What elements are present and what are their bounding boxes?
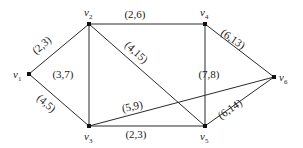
- edge-label-v1-v3: (4,5): [34, 92, 59, 116]
- edge-v3-v6: [89, 77, 274, 126]
- node-label-v2: v2: [84, 6, 93, 21]
- node-label-v1: v1: [13, 68, 22, 83]
- node-label-v4: v4: [200, 6, 209, 21]
- node-label-v3: v3: [84, 130, 93, 145]
- edge-label-v2-v5: (4,15): [122, 39, 151, 67]
- node-v2: [87, 22, 91, 26]
- edge-label-v2-v3: (3,7): [52, 68, 73, 81]
- edge-label-v3-v5: (2,3): [125, 128, 146, 141]
- edge-label-v2-v4: (2,6): [124, 8, 145, 21]
- node-v5: [203, 124, 207, 128]
- node-v6: [272, 75, 276, 79]
- node-v4: [203, 22, 207, 26]
- node-label-v6: v6: [279, 71, 288, 86]
- edge-labels-layer: (2,3)(4,5)(3,7)(2,6)(4,15)(2,3)(5,9)(7,8…: [29, 8, 247, 141]
- node-v1: [27, 72, 31, 76]
- edge-label-v4-v6: (6,13): [218, 26, 248, 52]
- edge-label-v5-v6: (6,14): [215, 96, 245, 122]
- node-label-v5: v5: [200, 130, 209, 145]
- graph-diagram: (2,3)(4,5)(3,7)(2,6)(4,15)(2,3)(5,9)(7,8…: [0, 0, 303, 148]
- edge-label-v4-v5: (7,8): [198, 68, 219, 81]
- node-v3: [87, 124, 91, 128]
- edge-label-v1-v2: (2,3): [29, 33, 54, 57]
